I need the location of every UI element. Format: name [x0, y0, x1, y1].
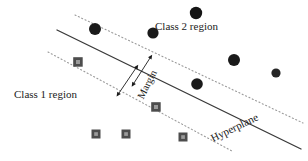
class1-data-point: [122, 130, 131, 139]
class2-data-point: [89, 23, 101, 35]
class2-data-point: [228, 54, 240, 66]
svm-hyperplane-figure: Class 2 region Class 1 region Margin Hyp…: [0, 0, 308, 161]
class1-region-label: Class 1 region: [14, 89, 77, 100]
class1-data-point: [151, 102, 161, 112]
class1-data-point: [92, 130, 101, 139]
class2-data-point: [190, 7, 202, 19]
class2-data-point: [271, 68, 280, 77]
class1-data-point: [179, 133, 188, 142]
class1-data-point: [73, 57, 83, 66]
class1-marker-group: [73, 57, 187, 141]
class2-region-label: Class 2 region: [155, 21, 218, 32]
lower-margin-arrow: [119, 68, 136, 93]
class2-data-point: [191, 78, 203, 90]
